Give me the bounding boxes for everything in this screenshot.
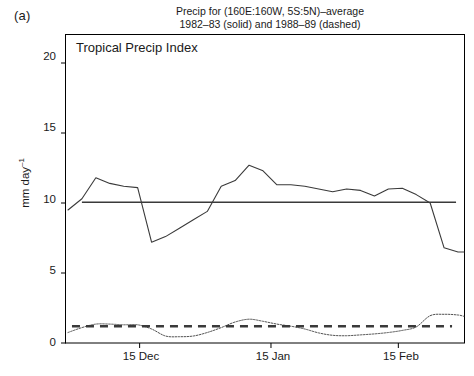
series-2-path bbox=[68, 314, 464, 337]
figure-title-line1: Precip for (160E:160W, 5S:5N)–average bbox=[120, 5, 420, 18]
plot-annotation: Tropical Precip Index bbox=[76, 40, 198, 55]
panel-label: (a) bbox=[14, 8, 31, 23]
y-tick-label-10: 10 bbox=[22, 193, 56, 205]
y-axis-label-exponent: –1 bbox=[17, 158, 26, 167]
x-tick-label-15-jan: 15 Jan bbox=[233, 350, 313, 362]
y-tick-label-20: 20 bbox=[22, 50, 56, 62]
series-0-path bbox=[68, 165, 464, 252]
y-tick-label-0: 0 bbox=[22, 336, 56, 348]
data-series-layer bbox=[68, 165, 464, 337]
figure-panel: (a) Precip for (160E:160W, 5S:5N)–averag… bbox=[0, 0, 474, 376]
figure-title-line2: 1982–83 (solid) and 1988–89 (dashed) bbox=[120, 18, 420, 31]
x-tick-label-15-feb: 15 Feb bbox=[361, 350, 441, 362]
y-tick-label-15: 15 bbox=[22, 121, 56, 133]
x-axis-ticks bbox=[140, 343, 399, 348]
y-axis-label: mm day–1 bbox=[17, 143, 31, 223]
y-tick-label-5: 5 bbox=[22, 264, 56, 276]
plot-frame-rect bbox=[66, 35, 465, 344]
plot-frame bbox=[66, 35, 465, 344]
plot-canvas bbox=[0, 0, 474, 376]
x-tick-label-15-dec: 15 Dec bbox=[101, 350, 181, 362]
figure-title: Precip for (160E:160W, 5S:5N)–average 19… bbox=[120, 5, 420, 31]
